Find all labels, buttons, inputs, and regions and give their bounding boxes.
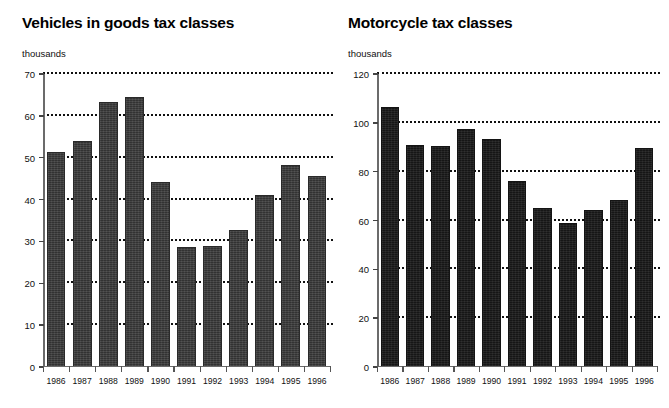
- bar-1989: [125, 97, 144, 367]
- y-tick-mark: [373, 122, 378, 124]
- x-tick-mark: [226, 366, 227, 372]
- y-tick-mark: [373, 317, 378, 319]
- x-tick-mark: [632, 366, 633, 372]
- x-tick-mark: [377, 366, 378, 372]
- plot-area-vehicles: 010203040506070 198619871988198919901991…: [43, 74, 330, 367]
- x-tick-mark: [402, 366, 403, 372]
- x-tick-mark: [453, 366, 454, 372]
- y-tick-mark: [39, 241, 44, 243]
- y-tick-label: 40: [358, 264, 369, 275]
- x-tick-mark: [555, 366, 556, 372]
- page-title-secondary: Motorcycle tax classes: [348, 14, 512, 32]
- y-tick-mark: [39, 157, 44, 159]
- x-tick-mark: [252, 366, 253, 372]
- y-tick-label: 40: [24, 194, 35, 205]
- x-tick-mark: [479, 366, 480, 372]
- x-tick-mark: [95, 366, 96, 372]
- y-tick-label: 60: [358, 215, 369, 226]
- y-tick-label: 80: [358, 166, 369, 177]
- bar-1990: [482, 139, 500, 367]
- y-tick-mark: [39, 115, 44, 117]
- x-tick-mark: [530, 366, 531, 372]
- bar-series-vehicles: [43, 74, 330, 367]
- bar-series-motorcycle: [377, 74, 657, 367]
- x-tick-label-1987: 1987: [406, 376, 425, 386]
- y-tick-mark: [373, 73, 378, 75]
- x-tick-mark: [173, 366, 174, 372]
- x-tick-mark: [200, 366, 201, 372]
- bar-1991: [508, 181, 526, 367]
- bar-1994: [255, 195, 274, 367]
- y-tick-mark: [39, 73, 44, 75]
- x-tick-mark: [428, 366, 429, 372]
- x-tick-mark: [581, 366, 582, 372]
- plot-area-motorcycle: 020406080100120 198619871988198919901991…: [377, 74, 657, 367]
- bar-1989: [457, 129, 475, 367]
- x-tick-mark: [43, 366, 44, 372]
- x-tick-label-1988: 1988: [99, 376, 118, 386]
- y-tick-mark: [39, 283, 44, 285]
- x-tick-mark: [657, 366, 658, 372]
- y-tick-mark: [373, 171, 378, 173]
- x-tick-label-1990: 1990: [151, 376, 170, 386]
- bar-1995: [281, 165, 300, 367]
- x-tick-label-1990: 1990: [482, 376, 501, 386]
- y-tick-mark: [373, 220, 378, 222]
- bar-1993: [559, 223, 577, 367]
- bar-1993: [229, 230, 248, 367]
- bar-1996: [635, 148, 653, 367]
- y-tick-label: 10: [24, 320, 35, 331]
- x-tick-mark: [606, 366, 607, 372]
- figure-container: Vehicles in goods tax classes thousands …: [0, 0, 669, 408]
- y-tick-label: 100: [353, 117, 369, 128]
- x-tick-label-1989: 1989: [125, 376, 144, 386]
- y-tick-label: 20: [358, 313, 369, 324]
- x-tick-label-1996: 1996: [307, 376, 326, 386]
- bar-1991: [177, 247, 196, 367]
- y-tick-label: 50: [24, 152, 35, 163]
- x-tick-mark: [330, 366, 331, 372]
- bar-1986: [47, 152, 66, 367]
- x-tick-label-1993: 1993: [229, 376, 248, 386]
- x-axis-line-right: [377, 366, 657, 368]
- y-tick-mark: [39, 324, 44, 326]
- x-tick-mark: [147, 366, 148, 372]
- bar-1988: [99, 102, 118, 367]
- x-tick-mark: [504, 366, 505, 372]
- y-axis-unit-label-left: thousands: [22, 48, 66, 59]
- y-tick-label: 70: [24, 69, 35, 80]
- x-tick-label-1994: 1994: [255, 376, 274, 386]
- x-tick-mark: [304, 366, 305, 372]
- bar-1994: [584, 210, 602, 367]
- y-tick-label: 20: [24, 278, 35, 289]
- chart-panel-vehicles: Vehicles in goods tax classes thousands …: [0, 0, 340, 408]
- x-tick-label-1994: 1994: [584, 376, 603, 386]
- bar-1996: [308, 176, 327, 367]
- x-tick-label-1988: 1988: [431, 376, 450, 386]
- bar-1986: [381, 107, 399, 367]
- x-tick-label-1989: 1989: [457, 376, 476, 386]
- bar-1988: [431, 146, 449, 367]
- bar-1992: [533, 208, 551, 367]
- y-tick-mark: [39, 199, 44, 201]
- x-tick-label-1995: 1995: [281, 376, 300, 386]
- x-tick-mark: [69, 366, 70, 372]
- y-tick-label: 0: [364, 362, 369, 373]
- bar-1992: [203, 246, 222, 367]
- x-tick-label-1986: 1986: [380, 376, 399, 386]
- x-tick-mark: [278, 366, 279, 372]
- y-tick-label: 0: [30, 362, 35, 373]
- x-axis-line-left: [43, 366, 330, 368]
- x-tick-label-1991: 1991: [177, 376, 196, 386]
- page-title: Vehicles in goods tax classes: [22, 14, 234, 32]
- x-tick-label-1992: 1992: [203, 376, 222, 386]
- y-tick-label: 120: [353, 69, 369, 80]
- bar-1987: [406, 145, 424, 367]
- x-tick-label-1987: 1987: [73, 376, 92, 386]
- bar-1987: [73, 141, 92, 367]
- x-tick-label-1992: 1992: [533, 376, 552, 386]
- bar-1995: [610, 200, 628, 367]
- bar-1990: [151, 182, 170, 367]
- x-tick-mark: [121, 366, 122, 372]
- y-tick-mark: [373, 269, 378, 271]
